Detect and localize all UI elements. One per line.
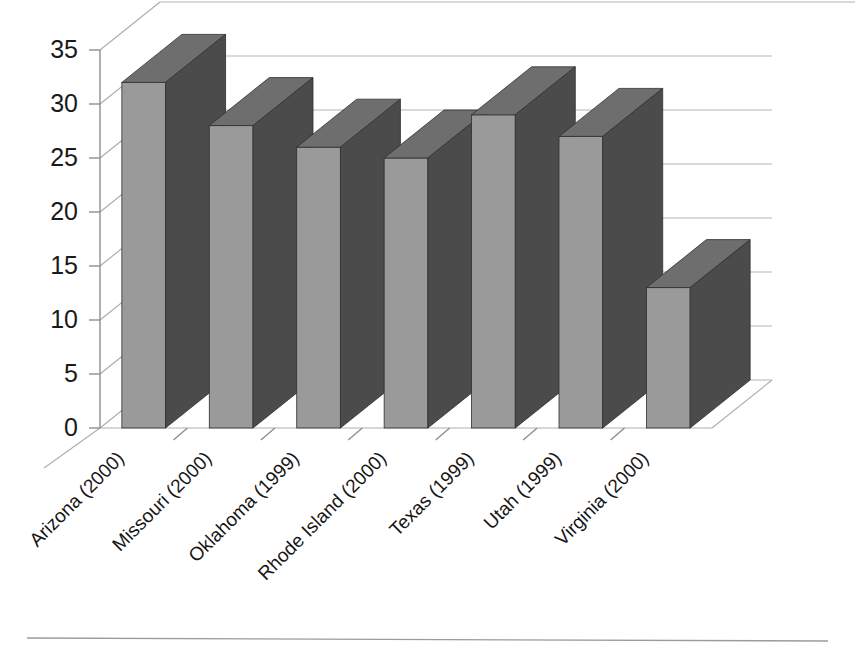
x-tick-1 bbox=[173, 428, 187, 440]
x-tick-5 bbox=[523, 428, 537, 440]
bar-front-face bbox=[646, 288, 690, 428]
y-tick-label-25: 25 bbox=[50, 143, 78, 171]
y-axis: 05101520253035 bbox=[50, 35, 100, 441]
bar-front-face bbox=[559, 136, 603, 428]
bar-front-face bbox=[297, 147, 341, 428]
x-axis-label: Texas (1999) bbox=[385, 448, 478, 541]
y-tick-label-10: 10 bbox=[50, 305, 78, 333]
x-tick-2 bbox=[261, 428, 275, 440]
bar-front-face bbox=[122, 82, 166, 428]
x-tick-6 bbox=[611, 428, 625, 440]
bar-front-face bbox=[384, 158, 428, 428]
bar-front-face bbox=[472, 115, 516, 428]
x-axis-labels: Arizona (2000)Missouri (2000)Oklahoma (1… bbox=[25, 448, 653, 585]
y-tick-label-20: 20 bbox=[50, 197, 78, 225]
x-axis-label: Utah (1999) bbox=[479, 448, 565, 534]
bottom-divider-rule bbox=[27, 638, 828, 641]
y-tick-label-0: 0 bbox=[64, 413, 78, 441]
y-tick-label-15: 15 bbox=[50, 251, 78, 279]
x-tick-4 bbox=[436, 428, 450, 440]
y-tick-label-30: 30 bbox=[50, 89, 78, 117]
gridline-depth-35 bbox=[100, 2, 160, 50]
x-tick-3 bbox=[348, 428, 362, 440]
bars-group bbox=[122, 34, 750, 428]
bar-chart: 05101520253035Arizona (2000)Missouri (20… bbox=[0, 0, 855, 654]
y-tick-label-5: 5 bbox=[64, 359, 78, 387]
chart-canvas: 05101520253035Arizona (2000)Missouri (20… bbox=[0, 0, 855, 654]
bar-front-face bbox=[209, 126, 253, 428]
x-axis-ticks bbox=[173, 428, 624, 440]
y-tick-label-35: 35 bbox=[50, 35, 78, 63]
x-axis-label: Virginia (2000) bbox=[551, 448, 653, 550]
